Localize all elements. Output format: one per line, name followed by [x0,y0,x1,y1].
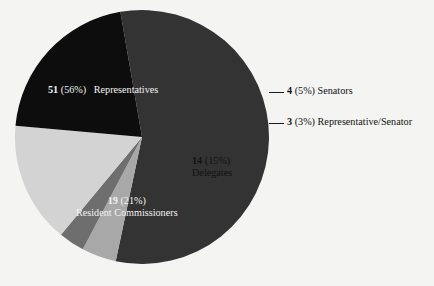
slice-count-resident-commissioners: 19 [108,195,118,206]
slice-label-senators: 4 (5%) Senators [287,85,353,97]
slice-name-delegates: Delegates [192,167,232,179]
slice-percent-representatives: (56%) [61,84,86,95]
slice-percent-resident-commissioners: (21%) [120,195,145,206]
pie-chart-graphic [0,0,434,286]
slice-percent-delegates: (15%) [205,155,230,166]
slice-name-representatives: Representatives [94,84,159,95]
slice-label-representative-senator: 3 (3%) Representative/Senator [287,116,412,128]
pie-slices [15,10,269,264]
slice-label-representatives: 51 (56%) Representatives [48,84,158,96]
leader-line-senators [269,92,284,93]
slice-label-resident-commissioners-line1: 19 (21%) [76,195,178,207]
slice-count-senators: 4 [287,85,292,96]
slice-count-delegates: 14 [192,155,202,166]
slice-label-delegates-line1: 14 (15%) [192,155,232,167]
slice-name-senators: Senators [318,85,353,96]
slice-label-resident-commissioners: 19 (21%) Resident Commissioners [76,195,178,219]
slice-name-representative-senator: Representative/Senator [318,116,412,127]
slice-name-resident-commissioners: Resident Commissioners [76,207,178,219]
slice-percent-representative-senator: (3%) [295,116,315,127]
slice-count-representatives: 51 [48,84,58,95]
pie-chart-figure: 51 (56%) Representatives 4 (5%) Senators… [0,0,434,286]
slice-label-delegates: 14 (15%) Delegates [192,155,232,179]
pie-slice-resident-commissioners [15,12,142,137]
slice-percent-senators: (5%) [295,85,315,96]
leader-line-representative-senator [269,123,284,124]
slice-count-representative-senator: 3 [287,116,292,127]
